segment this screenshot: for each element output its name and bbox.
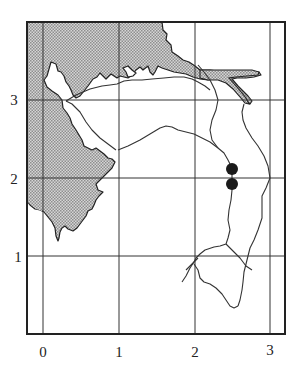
y-axis-labels: 3 2 1 — [10, 92, 22, 265]
map-figure: 0 1 2 3 3 2 1 — [0, 0, 296, 378]
river-east — [238, 104, 270, 306]
site-marker-2[interactable] — [226, 178, 238, 190]
y-tick-label: 2 — [10, 171, 18, 187]
river-southwest — [182, 258, 198, 282]
y-tick-label: 1 — [14, 249, 22, 265]
y-tick-label: 3 — [10, 92, 18, 108]
x-tick-label: 0 — [39, 344, 47, 360]
river-center — [118, 126, 232, 270]
shaded-coast-lower — [27, 22, 43, 211]
x-axis-labels: 0 1 2 3 — [39, 342, 274, 360]
shaded-landmass — [27, 22, 261, 241]
x-tick-label: 3 — [266, 342, 274, 358]
river-south — [194, 264, 238, 308]
x-tick-label: 1 — [115, 344, 123, 360]
site-marker-1[interactable] — [226, 163, 238, 175]
x-tick-label: 2 — [191, 344, 199, 360]
